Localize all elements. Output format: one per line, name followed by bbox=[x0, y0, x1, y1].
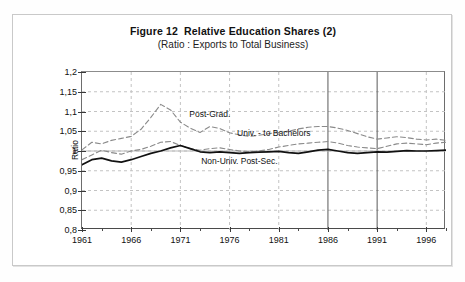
y-axis-tick-label: 0,85 bbox=[59, 205, 77, 215]
x-axis-tick-label: 1966 bbox=[121, 235, 141, 245]
x-axis-tick-label: 1961 bbox=[72, 235, 92, 245]
y-axis-tick-label: 1,05 bbox=[59, 126, 77, 136]
y-axis-tick bbox=[78, 92, 86, 93]
x-axis-tick bbox=[328, 227, 329, 232]
x-axis-minor-tick bbox=[298, 228, 299, 231]
title-block: Figure 12 Relative Education Shares (2) … bbox=[13, 25, 453, 50]
x-axis-tick-label: 1981 bbox=[269, 235, 289, 245]
x-axis-minor-tick bbox=[151, 228, 152, 231]
x-axis-tick-label: 1971 bbox=[170, 235, 190, 245]
x-axis-tick-label: 1976 bbox=[220, 235, 240, 245]
series-annotation: Post-Grad. bbox=[189, 109, 230, 119]
y-axis-tick-label: 1,15 bbox=[59, 87, 77, 97]
series-annotation: Univ. - to Bachelors bbox=[237, 128, 311, 138]
x-axis-tick bbox=[377, 227, 378, 232]
y-axis-tick bbox=[78, 210, 86, 211]
x-axis-minor-tick bbox=[249, 228, 250, 231]
x-axis-tick bbox=[230, 227, 231, 232]
x-axis-minor-tick bbox=[348, 228, 349, 231]
x-axis-minor-tick bbox=[102, 228, 103, 231]
y-axis-tick bbox=[78, 72, 86, 73]
figure-page: Figure 12 Relative Education Shares (2) … bbox=[0, 0, 465, 282]
y-axis-tick-label: 0,95 bbox=[59, 166, 77, 176]
x-axis-tick bbox=[279, 227, 280, 232]
y-axis-tick bbox=[78, 151, 86, 152]
y-axis-tick bbox=[78, 191, 86, 192]
plot-area: 0,80,850,90,9511,051,11,151,219611966197… bbox=[81, 71, 445, 229]
y-axis-tick-label: 0,8 bbox=[64, 225, 77, 235]
x-axis-minor-tick bbox=[200, 228, 201, 231]
figure-frame: Figure 12 Relative Education Shares (2) … bbox=[12, 14, 452, 266]
y-axis-tick-label: 1 bbox=[72, 146, 77, 156]
x-axis-minor-tick bbox=[397, 228, 398, 231]
chart-svg bbox=[82, 72, 446, 230]
x-axis-tick bbox=[180, 227, 181, 232]
y-axis-tick-label: 1,1 bbox=[64, 107, 77, 117]
x-axis-tick bbox=[131, 227, 132, 232]
x-axis-minor-tick bbox=[446, 228, 447, 231]
x-axis-tick bbox=[82, 227, 83, 232]
y-axis-tick bbox=[78, 112, 86, 113]
page-title: Figure 12 Relative Education Shares (2) bbox=[13, 25, 453, 37]
chart-subtitle: (Ratio : Exports to Total Business) bbox=[13, 39, 453, 50]
x-axis-tick-label: 1986 bbox=[318, 235, 338, 245]
x-axis-tick bbox=[426, 227, 427, 232]
y-axis-tick-label: 0,9 bbox=[64, 186, 77, 196]
y-axis-tick bbox=[78, 171, 86, 172]
y-axis-tick-label: 1,2 bbox=[64, 67, 77, 77]
x-axis-tick-label: 1996 bbox=[416, 235, 436, 245]
y-axis-tick bbox=[78, 131, 86, 132]
plot-wrapper: Ratio 0,80,850,90,9511,051,11,151,219611… bbox=[69, 71, 445, 229]
x-axis-tick-label: 1991 bbox=[367, 235, 387, 245]
series-annotation: Non-Univ. Post-Sec. bbox=[201, 156, 277, 166]
